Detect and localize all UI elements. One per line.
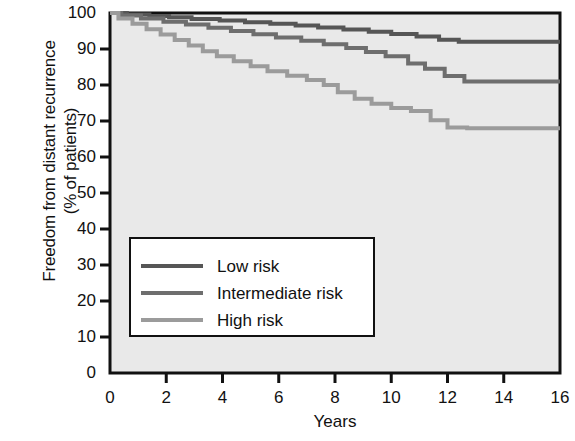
legend-entry: Low risk bbox=[141, 255, 279, 277]
kaplan-meier-chart: Freedom from distant recurrence (% of pa… bbox=[0, 0, 575, 441]
legend-swatch-low-risk bbox=[141, 264, 203, 268]
legend: Low riskIntermediate riskHigh risk bbox=[129, 237, 375, 337]
legend-swatch-intermediate-risk bbox=[141, 291, 203, 295]
legend-label: Low risk bbox=[217, 258, 279, 275]
legend-swatch-high-risk bbox=[141, 318, 203, 322]
legend-entry: High risk bbox=[141, 309, 283, 331]
legend-entry: Intermediate risk bbox=[141, 282, 343, 304]
legend-label: Intermediate risk bbox=[217, 285, 343, 302]
legend-label: High risk bbox=[217, 312, 283, 329]
plot-area bbox=[0, 0, 575, 441]
